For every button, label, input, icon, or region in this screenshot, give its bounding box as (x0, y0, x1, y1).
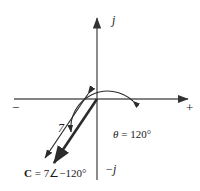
axis-label-real-positive: + (186, 101, 193, 114)
axis-label-imag-positive: j (112, 14, 115, 26)
caption-polar-value: 7∠−120° (44, 167, 87, 179)
angle-label: θ = 120° (113, 129, 151, 140)
angle-value: 120° (130, 128, 151, 140)
caption-equals-sign: = (35, 167, 41, 179)
diagram-canvas (0, 0, 200, 191)
axis-label-imag-negative: −j (105, 163, 116, 175)
vector-caption: C = 7∠−120° (24, 168, 86, 179)
angle-symbol: θ (113, 128, 118, 140)
axis-label-real-negative: − (12, 101, 19, 114)
magnitude-dimension-line (45, 94, 88, 158)
vector-magnitude-label: 7 (58, 122, 64, 134)
phasor-diagram-figure: j −j + − 7 θ = 120° C = 7∠−120° (0, 0, 200, 191)
angle-equals-sign: = (121, 128, 127, 140)
vector-name: C (24, 167, 32, 179)
